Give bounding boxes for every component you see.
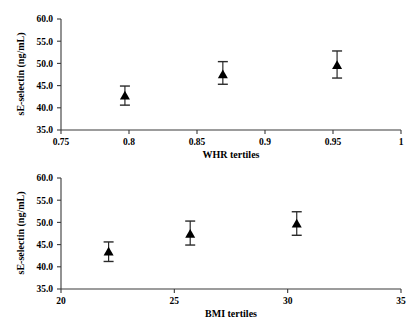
whr-marker-triangle bbox=[218, 70, 228, 79]
bmi-y-tick-marks bbox=[57, 178, 61, 289]
whr-x-tick-label: 0.85 bbox=[189, 137, 206, 147]
whr-y-tick-labels: 35.040.045.050.055.060.0 bbox=[36, 14, 53, 135]
bmi-y-tick-label: 50.0 bbox=[36, 218, 53, 228]
whr-x-tick-labels: 0.750.80.850.90.951 bbox=[53, 137, 404, 147]
bmi-marker-triangle bbox=[104, 247, 114, 256]
whr-x-axis-title: WHR tertiles bbox=[203, 149, 260, 160]
whr-x-tick-label: 0.75 bbox=[53, 137, 70, 147]
figure-container: 35.040.045.050.055.060.0 0.750.80.850.90… bbox=[0, 0, 418, 329]
bmi-x-tick-label: 25 bbox=[170, 296, 180, 306]
whr-y-tick-label: 45.0 bbox=[36, 81, 53, 91]
whr-x-tick-label: 0.9 bbox=[259, 137, 271, 147]
bmi-marker-triangle bbox=[185, 229, 195, 238]
bmi-x-tick-marks bbox=[61, 289, 401, 293]
whr-data-points bbox=[120, 51, 342, 105]
whr-x-tick-label: 1 bbox=[399, 137, 404, 147]
chart-panel-whr: 35.040.045.050.055.060.0 0.750.80.850.90… bbox=[0, 0, 418, 164]
bmi-data-points bbox=[104, 212, 302, 262]
bmi-y-tick-labels: 35.040.045.050.055.060.0 bbox=[36, 173, 53, 294]
whr-y-tick-label: 50.0 bbox=[36, 59, 53, 69]
whr-y-tick-label: 55.0 bbox=[36, 37, 53, 47]
bmi-y-axis-title: sE-selectin (ng/mL) bbox=[15, 191, 27, 274]
bmi-point-group bbox=[104, 242, 114, 262]
whr-y-tick-label: 40.0 bbox=[36, 103, 53, 113]
bmi-y-tick-label: 45.0 bbox=[36, 240, 53, 250]
bmi-point-group bbox=[185, 221, 195, 245]
bmi-plot-svg: 35.040.045.050.055.060.0 20253035 BMI te… bbox=[0, 165, 418, 329]
whr-marker-triangle bbox=[120, 91, 130, 100]
bmi-x-axis-title: BMI tertiles bbox=[205, 308, 257, 319]
whr-point-group bbox=[332, 51, 342, 78]
whr-y-tick-label: 60.0 bbox=[36, 14, 53, 24]
bmi-y-tick-label: 55.0 bbox=[36, 196, 53, 206]
bmi-point-group bbox=[292, 212, 302, 236]
bmi-x-tick-label: 20 bbox=[56, 296, 66, 306]
bmi-x-tick-label: 30 bbox=[283, 296, 293, 306]
whr-point-group bbox=[120, 86, 130, 105]
whr-x-tick-label: 0.95 bbox=[325, 137, 342, 147]
whr-axes bbox=[61, 19, 401, 130]
bmi-x-tick-label: 35 bbox=[396, 296, 406, 306]
bmi-y-tick-label: 40.0 bbox=[36, 262, 53, 272]
whr-y-axis-title: sE-selectin (ng/mL) bbox=[15, 32, 27, 115]
bmi-y-tick-label: 35.0 bbox=[36, 284, 53, 294]
chart-panel-bmi: 35.040.045.050.055.060.0 20253035 BMI te… bbox=[0, 165, 418, 329]
whr-x-tick-label: 0.8 bbox=[123, 137, 135, 147]
whr-y-tick-marks bbox=[57, 19, 61, 130]
whr-y-tick-label: 35.0 bbox=[36, 125, 53, 135]
whr-point-group bbox=[218, 62, 228, 85]
bmi-marker-triangle bbox=[292, 219, 302, 228]
whr-plot-svg: 35.040.045.050.055.060.0 0.750.80.850.90… bbox=[0, 0, 418, 164]
bmi-y-tick-label: 60.0 bbox=[36, 173, 53, 183]
whr-marker-triangle bbox=[332, 60, 342, 69]
bmi-axes bbox=[61, 178, 401, 289]
bmi-x-tick-labels: 20253035 bbox=[56, 296, 406, 306]
whr-x-tick-marks bbox=[61, 130, 401, 134]
